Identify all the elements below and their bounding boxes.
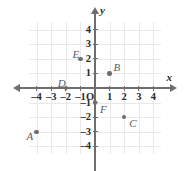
y-axis-tick-label: 3	[86, 39, 91, 50]
x-axis-tick	[124, 86, 125, 91]
point-label-e: E	[72, 49, 79, 60]
x-axis-tick-label: 1	[107, 92, 112, 103]
axis-arrow-right	[170, 84, 177, 92]
y-axis-tick	[93, 73, 98, 74]
point-label-f: F	[100, 104, 107, 115]
plotted-point-c	[122, 115, 126, 119]
point-label-d: D	[58, 78, 66, 89]
x-axis-tick-label: 3	[136, 92, 141, 103]
y-axis-tick-label: –2	[81, 112, 92, 123]
x-axis-tick-label: 4	[151, 92, 156, 103]
y-axis	[94, 13, 96, 171]
axis-arrow-left	[13, 84, 20, 92]
y-axis-tick	[93, 58, 98, 59]
x-axis-label: x	[166, 72, 172, 83]
point-label-b: B	[114, 62, 121, 73]
y-axis-tick	[93, 131, 98, 132]
axis-arrow-up	[91, 7, 99, 14]
x-axis-tick	[153, 86, 154, 91]
coordinate-plane: –4–3–2–112344321–1–2–3–4 ABCDEF x y O	[0, 0, 190, 171]
x-axis-tick	[36, 86, 37, 91]
x-axis-tick-label: –2	[61, 92, 72, 103]
x-axis-tick	[109, 86, 110, 91]
y-axis-label: y	[100, 5, 105, 16]
y-axis-tick-label: 4	[86, 24, 91, 35]
y-axis-tick-label: 1	[86, 68, 91, 79]
y-axis-tick	[93, 117, 98, 118]
y-axis-tick	[93, 146, 98, 147]
x-axis-tick	[80, 86, 81, 91]
y-axis-tick-label: –3	[81, 127, 92, 138]
y-axis-tick-label: 2	[86, 54, 91, 65]
x-axis-tick-label: 2	[122, 92, 127, 103]
plotted-point-b	[107, 71, 111, 75]
y-axis-tick	[93, 29, 98, 30]
origin-label: O	[86, 92, 94, 103]
x-axis-tick	[138, 86, 139, 91]
x-axis-tick-label: –3	[46, 92, 57, 103]
y-axis-tick	[93, 44, 98, 45]
point-label-a: A	[27, 131, 34, 142]
y-axis-tick-label: –4	[81, 141, 92, 152]
x-axis-tick-label: –4	[31, 92, 42, 103]
plotted-point-a	[34, 130, 38, 134]
x-axis-tick	[51, 86, 52, 91]
point-label-c: C	[129, 118, 136, 129]
